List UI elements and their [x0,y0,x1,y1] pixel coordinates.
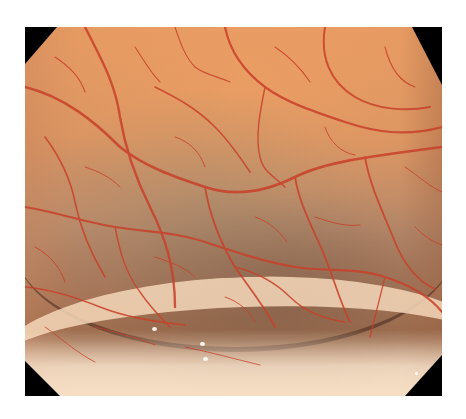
light-reflection [200,342,205,346]
vascular-pattern [25,27,442,396]
endoscopy-photo [25,27,442,396]
figure-canvas [0,0,466,419]
light-reflection [203,357,208,361]
corner-mask-bottom-left [25,361,60,396]
corner-mask-top-right [412,27,442,85]
corner-mask-top-left [25,27,57,64]
corner-mask-bottom-right [405,355,442,396]
light-reflection [152,327,157,331]
